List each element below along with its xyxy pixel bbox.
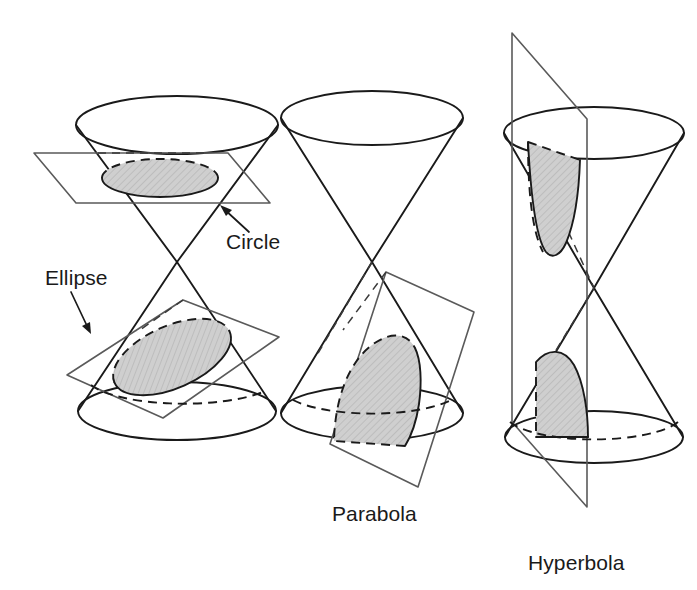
cone-bottom-rim (78, 382, 276, 440)
ellipse-annotation: Ellipse (45, 266, 108, 334)
conic-sections-canvas: Circle Ellipse (0, 0, 697, 590)
parabola-label: Parabola (332, 502, 417, 525)
panel-hyperbola: Hyperbola (504, 33, 684, 574)
parabola-cross-section (334, 335, 421, 446)
hyperbola-lower-branch (536, 352, 588, 437)
panel-circle-ellipse: Circle Ellipse (34, 96, 280, 440)
ellipse-leader-line (71, 292, 88, 328)
ellipse-leader-arrowhead (82, 322, 91, 334)
hyperbola-label: Hyperbola (528, 551, 625, 574)
cone-top-rim (76, 96, 278, 154)
conic-sections-figure: Circle Ellipse (0, 0, 697, 590)
ellipse-cross-section (102, 303, 242, 411)
cone-top-rim (281, 91, 463, 145)
cone-bottom-rim (505, 411, 683, 463)
circle-annotation: Circle (220, 205, 280, 253)
panel-parabola: Parabola (281, 91, 474, 525)
parabola-cross-fill (334, 335, 421, 446)
ellipse-label: Ellipse (45, 266, 108, 289)
hyperbola-lower-fill (536, 352, 588, 437)
circle-label: Circle (226, 230, 280, 253)
ellipse-cross-fill (102, 303, 242, 411)
circle-cross-section (102, 159, 218, 197)
